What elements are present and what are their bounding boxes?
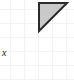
figure-canvas: x	[0, 0, 74, 80]
right-triangle-shape[interactable]	[39, 3, 67, 31]
x-axis-label: x	[2, 48, 6, 58]
shape-layer	[0, 0, 74, 80]
